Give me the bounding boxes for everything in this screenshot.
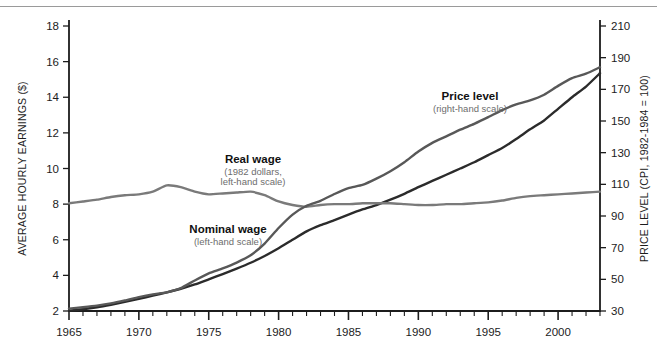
- left-axis-tick-label: 4: [53, 269, 60, 281]
- right-axis-tick-label: 90: [611, 210, 624, 222]
- annotation-nominal-wage: Nominal wage(left-hand scale): [189, 223, 266, 247]
- x-axis-tick-label: 2000: [545, 326, 571, 338]
- right-axis-tick-label: 70: [611, 242, 624, 254]
- left-axis-tick-label: 14: [46, 91, 59, 103]
- left-axis-tick-label: 2: [53, 305, 59, 317]
- x-axis-tick-label: 1995: [475, 326, 501, 338]
- x-axis-tick-label: 1975: [196, 326, 222, 338]
- left-axis-tick-label: 12: [46, 127, 59, 139]
- right-axis-title: PRICE LEVEL (CPI, 1982-1984 = 100): [638, 75, 650, 262]
- right-axis-tick-label: 150: [611, 115, 630, 127]
- series-line-price-level: [69, 67, 600, 308]
- right-axis-tick-label: 30: [611, 305, 624, 317]
- left-axis-tick-label: 6: [53, 234, 59, 246]
- series-line-real-wage: [69, 185, 600, 206]
- left-axis-tick-label: 16: [46, 56, 59, 68]
- chart-figure: 2468101214161830507090110130150170190210…: [0, 0, 657, 346]
- axis-spines: [69, 20, 600, 311]
- annotation-subtitle: (left-hand scale): [194, 236, 262, 247]
- left-axis-tick-label: 10: [46, 163, 59, 175]
- annotation-title: Price level: [442, 90, 499, 102]
- chart-canvas: 2468101214161830507090110130150170190210…: [0, 0, 657, 346]
- right-axis-tick-label: 170: [611, 83, 630, 95]
- x-axis-tick-label: 1990: [406, 326, 432, 338]
- x-axis-tick-label: 1965: [56, 326, 82, 338]
- left-axis-title: AVERAGE HOURLY EARNINGS ($): [16, 81, 28, 256]
- annotation-title: Real wage: [225, 153, 281, 165]
- annotation-title: Nominal wage: [189, 223, 266, 235]
- annotation-subtitle: (right-hand scale): [433, 103, 507, 114]
- annotation-price-level: Price level(right-hand scale): [433, 90, 507, 114]
- left-axis-tick-label: 8: [53, 198, 59, 210]
- x-axis-tick-label: 1985: [336, 326, 362, 338]
- x-axis-tick-label: 1980: [266, 326, 292, 338]
- x-axis-tick-label: 1970: [126, 326, 152, 338]
- right-axis-tick-label: 130: [611, 147, 630, 159]
- right-axis-tick-label: 190: [611, 52, 630, 64]
- annotation-subtitle: left-hand scale): [221, 176, 286, 187]
- annotation-real-wage: Real wage(1982 dollars,left-hand scale): [221, 153, 286, 187]
- right-axis-tick-label: 50: [611, 273, 624, 285]
- right-axis-tick-label: 110: [611, 178, 629, 190]
- right-axis-tick-label: 210: [611, 20, 630, 32]
- left-axis-tick-label: 18: [46, 20, 59, 32]
